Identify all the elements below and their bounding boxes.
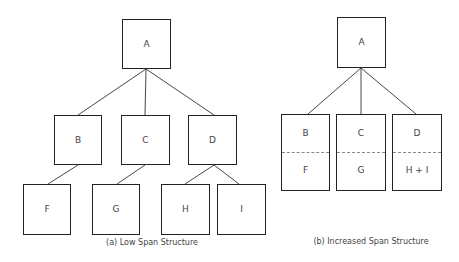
- node-c-low-span: C: [121, 115, 170, 165]
- node-label: A: [123, 39, 170, 49]
- node-label: C: [122, 135, 169, 145]
- node-label: D: [189, 135, 236, 145]
- node-d-low-span: D: [188, 115, 237, 165]
- node-label: B: [55, 135, 101, 145]
- dashed-divider: [337, 152, 385, 153]
- node-label-bottom: H + I: [393, 165, 441, 175]
- node-g-low-span: G: [92, 184, 140, 235]
- caption-low-span: (a) Low Span Structure: [106, 238, 198, 247]
- node-bf-increased-span: B F: [281, 114, 330, 191]
- node-label-top: C: [337, 128, 385, 138]
- node-a-low-span: A: [122, 19, 171, 69]
- node-h-low-span: H: [161, 184, 210, 235]
- node-label-bottom: F: [282, 165, 329, 175]
- dashed-divider: [393, 152, 441, 153]
- node-dhi-increased-span: D H + I: [392, 114, 442, 191]
- node-label-bottom: G: [337, 165, 385, 175]
- node-label-top: B: [282, 128, 329, 138]
- node-label: A: [338, 37, 385, 47]
- node-cg-increased-span: C G: [336, 114, 386, 191]
- node-label: I: [218, 204, 265, 214]
- node-a-increased-span: A: [337, 17, 386, 68]
- org-structure-figure: A B C D F G H I (a) Low Span Structure A…: [0, 0, 459, 262]
- node-label: H: [162, 204, 209, 214]
- node-label: G: [93, 204, 139, 214]
- caption-increased-span: (b) Increased Span Structure: [313, 237, 428, 246]
- node-b-low-span: B: [54, 115, 102, 165]
- node-f-low-span: F: [23, 184, 71, 235]
- node-label: F: [24, 204, 70, 214]
- node-label-top: D: [393, 128, 441, 138]
- dashed-divider: [282, 152, 329, 153]
- node-i-low-span: I: [217, 184, 266, 235]
